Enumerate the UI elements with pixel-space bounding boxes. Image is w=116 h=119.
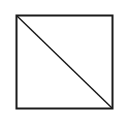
diagram-canvas bbox=[0, 0, 116, 119]
